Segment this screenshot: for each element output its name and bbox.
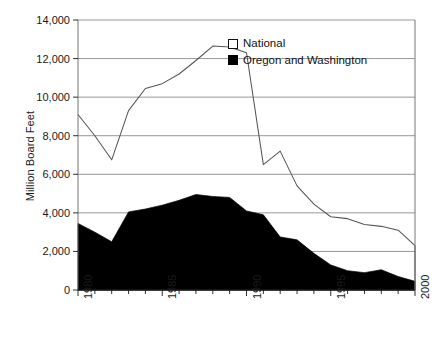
y-axis-tick-label: 12,000 (12, 53, 70, 65)
series-area-oregon-and-washington (78, 195, 415, 290)
x-axis-tick-label: 1990 (251, 275, 263, 299)
y-axis-tick-label: 10,000 (12, 91, 70, 103)
y-axis-tick-label: 0 (12, 284, 70, 296)
chart-container: Million Board Feet 02,0004,0006,0008,000… (0, 0, 436, 340)
x-axis-ticks (78, 290, 415, 296)
legend-label: Oregon and Washington (243, 55, 367, 67)
filled-square-icon (228, 55, 238, 65)
chart-legend: NationalOregon and Washington (228, 38, 367, 71)
x-axis-tick-label: 1985 (166, 275, 178, 299)
series-layer (78, 46, 415, 290)
y-axis-ticks (73, 20, 78, 290)
legend-label: National (243, 38, 285, 50)
y-axis-tick-label: 4,000 (12, 207, 70, 219)
y-axis-tick-label: 8,000 (12, 130, 70, 142)
legend-item: National (228, 38, 367, 50)
open-square-icon (228, 39, 238, 49)
y-axis-tick-label: 6,000 (12, 168, 70, 180)
y-axis-title: Million Board Feet (24, 86, 36, 226)
y-axis-tick-label: 14,000 (12, 14, 70, 26)
x-axis-tick-label: 2000 (419, 275, 431, 299)
y-axis-tick-label: 2,000 (12, 245, 70, 257)
legend-item: Oregon and Washington (228, 55, 367, 67)
x-axis-tick-label: 1980 (82, 275, 94, 299)
x-axis-tick-label: 1995 (335, 275, 347, 299)
